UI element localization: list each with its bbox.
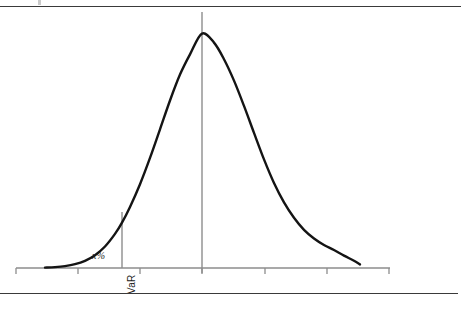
bottom-horizontal-rule: [0, 293, 458, 294]
tail-probability-label: x%: [92, 250, 105, 261]
var-distribution-chart: [0, 0, 464, 309]
var-axis-label: VaR: [126, 264, 152, 294]
figure-canvas: x% VaR: [0, 0, 464, 309]
